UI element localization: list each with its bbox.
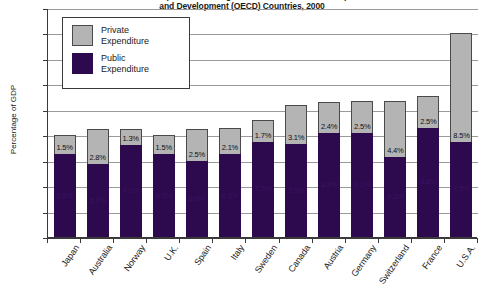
bar-value-label-public: 8.2% — [321, 180, 337, 189]
x-axis-label-germany: Germany — [349, 243, 378, 278]
x-axis-label-sweden: Sweden — [253, 243, 280, 275]
bar-value-label-public: 6.0% — [189, 194, 205, 203]
bar-segment-public[interactable]: 6.5% — [54, 154, 76, 237]
bar-segment-public[interactable]: 7.5% — [450, 142, 472, 237]
bar-stack[interactable]: 4.4%6.3% — [384, 101, 406, 237]
bar-column[interactable]: 2.4%8.2% — [313, 8, 346, 237]
bar-segment-private[interactable]: 2.5% — [351, 101, 373, 133]
bar-value-label-public: 6.3% — [387, 192, 403, 201]
x-axis-label-canada: Canada — [286, 243, 312, 274]
y-axis-title: Percentage of GDP — [9, 60, 18, 180]
bar-segment-public[interactable]: 7.2% — [120, 145, 142, 237]
x-axis-label-switzerland: Switzerland — [377, 243, 411, 286]
bar-segment-public[interactable]: 8.6% — [417, 128, 439, 237]
bar-column[interactable]: 2.1%6.5% — [213, 8, 246, 237]
bar-segment-private[interactable]: 2.4% — [318, 102, 340, 133]
bar-column[interactable]: 4.4%6.3% — [379, 8, 412, 237]
bar-column[interactable]: 2.5%8.6% — [412, 8, 445, 237]
bar-stack[interactable]: 1.5%6.5% — [153, 135, 175, 237]
bar-segment-public[interactable]: 8.2% — [351, 133, 373, 237]
bar-segment-private[interactable]: 1.5% — [153, 135, 175, 154]
bar-value-label-public: 8.6% — [420, 177, 436, 186]
bar-value-label-public: 6.5% — [156, 191, 172, 200]
bar-segment-public[interactable]: 6.0% — [186, 161, 208, 237]
x-axis-label-u-k: U.K. — [162, 243, 180, 263]
bar-value-label-private: 1.7% — [255, 131, 271, 140]
x-axis-labels: JapanAustraliaNorwayU.K.SpainItalySweden… — [47, 243, 477, 292]
x-axis-label-austria: Austria — [321, 243, 345, 271]
x-axis-label-australia: Australia — [86, 243, 114, 277]
bar-stack[interactable]: 2.5%8.6% — [417, 96, 439, 237]
bar-value-label-public: 7.5% — [453, 184, 469, 193]
bar-value-label-public: 6.5% — [56, 191, 72, 200]
bar-segment-public[interactable]: 6.5% — [219, 154, 241, 237]
chart-container: Total Health Expenditure in Organisation… — [0, 0, 484, 292]
bar-segment-private[interactable]: 2.5% — [186, 129, 208, 161]
bar-value-label-private: 8.5% — [453, 131, 469, 140]
bar-segment-private[interactable]: 3.1% — [285, 105, 307, 144]
bar-value-label-public: 8.2% — [354, 180, 370, 189]
bar-value-label-private: 1.5% — [156, 143, 172, 152]
bar-stack[interactable]: 2.4%8.2% — [318, 102, 340, 237]
x-tick-mark — [477, 238, 478, 243]
bar-segment-public[interactable]: 6.3% — [384, 157, 406, 237]
bar-segment-public[interactable]: 8.2% — [318, 133, 340, 237]
bar-value-label-private: 2.8% — [89, 153, 105, 162]
legend-item-private: Private Expenditure — [72, 25, 189, 46]
x-axis-label-u-s-a: U.S.A. — [455, 243, 478, 270]
bar-column[interactable]: 2.5%8.2% — [346, 8, 379, 237]
bar-column[interactable]: 3.1%7.3% — [280, 8, 313, 237]
bar-stack[interactable]: 3.1%7.3% — [285, 105, 307, 237]
legend-label-private: Private Expenditure — [101, 25, 149, 46]
legend-swatch-public-icon — [72, 53, 93, 74]
chart-legend: Private Expenditure Public Expenditure — [62, 17, 190, 89]
bar-value-label-private: 1.3% — [123, 134, 139, 143]
bar-segment-private[interactable]: 1.7% — [252, 120, 274, 142]
bar-value-label-private: 3.1% — [288, 133, 304, 142]
bar-value-label-private: 2.1% — [222, 143, 238, 152]
bar-stack[interactable]: 2.1%6.5% — [219, 128, 241, 237]
bar-value-label-private: 2.5% — [354, 122, 370, 131]
bar-segment-private[interactable]: 2.5% — [417, 96, 439, 128]
bar-value-label-public: 6.5% — [222, 191, 238, 200]
bar-segment-public[interactable]: 7.5% — [252, 142, 274, 237]
legend-label-public: Public Expenditure — [101, 53, 149, 74]
bar-segment-public[interactable]: 7.3% — [285, 144, 307, 237]
x-axis-label-japan: Japan — [59, 243, 81, 268]
x-axis-label-norway: Norway — [122, 243, 147, 273]
bar-segment-private[interactable]: 2.8% — [87, 129, 109, 165]
bar-segment-private[interactable]: 2.1% — [219, 128, 241, 155]
x-axis-label-france: France — [421, 243, 445, 271]
bar-value-label-public: 7.3% — [288, 186, 304, 195]
bar-segment-public[interactable]: 6.5% — [153, 154, 175, 237]
bar-stack[interactable]: 1.5%6.5% — [54, 135, 76, 237]
bar-value-label-private: 2.4% — [321, 122, 337, 131]
bar-stack[interactable]: 1.7%7.5% — [252, 120, 274, 237]
bar-segment-private[interactable]: 4.4% — [384, 101, 406, 157]
bar-value-label-public: 7.5% — [255, 184, 271, 193]
bar-value-label-public: 5.7% — [89, 196, 105, 205]
bar-value-label-private: 2.5% — [189, 150, 205, 159]
x-axis-label-spain: Spain — [192, 243, 213, 267]
bar-segment-public[interactable]: 5.7% — [87, 164, 109, 237]
bar-segment-private[interactable]: 1.5% — [54, 135, 76, 154]
bar-column[interactable]: 8.5%7.5% — [445, 8, 478, 237]
bar-stack[interactable]: 8.5%7.5% — [450, 33, 472, 237]
bar-value-label-private: 2.5% — [420, 117, 436, 126]
bar-stack[interactable]: 2.8%5.7% — [87, 129, 109, 237]
bar-stack[interactable]: 2.5%8.2% — [351, 101, 373, 237]
bar-value-label-private: 1.5% — [56, 143, 72, 152]
bar-column[interactable]: 1.7%7.5% — [246, 8, 279, 237]
legend-item-public: Public Expenditure — [72, 53, 189, 74]
bar-segment-private[interactable]: 1.3% — [120, 129, 142, 146]
x-axis-label-italy: Italy — [229, 243, 246, 262]
bar-segment-private[interactable]: 8.5% — [450, 33, 472, 141]
legend-swatch-private-icon — [72, 25, 93, 46]
bar-stack[interactable]: 2.5%6.0% — [186, 129, 208, 237]
bar-stack[interactable]: 1.3%7.2% — [120, 129, 142, 237]
bar-value-label-public: 7.2% — [123, 186, 139, 195]
bar-value-label-private: 4.4% — [387, 146, 403, 155]
